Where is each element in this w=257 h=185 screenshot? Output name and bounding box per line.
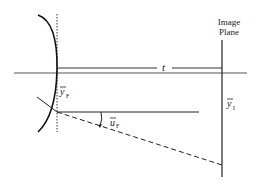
image-plane-label-line1: Image <box>218 17 241 27</box>
distance-t-label: t <box>162 61 166 73</box>
optical-diagram: t Image Plane y F u F y I <box>0 0 257 185</box>
y-i-label: y <box>226 98 232 109</box>
angle-arc-u-f <box>100 112 102 126</box>
y-f-subscript: F <box>66 93 70 99</box>
image-plane-label-line2: Plane <box>219 27 239 37</box>
y-i-subscript: I <box>233 105 235 111</box>
y-f-label: y <box>59 86 65 97</box>
u-f-label: u <box>110 117 115 128</box>
u-f-subscript: F <box>116 123 120 129</box>
outgoing-ray-dashed <box>57 112 222 165</box>
angle-arrowhead <box>98 124 102 128</box>
